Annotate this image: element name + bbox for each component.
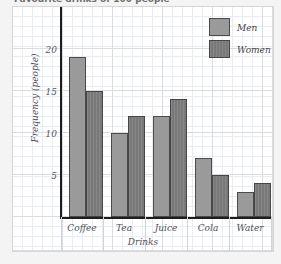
x-tick-label-coffee: Coffee [61, 223, 103, 233]
chart-title-clipped: Favourite drinks of 100 people [14, 0, 254, 4]
legend-label-women: Women [237, 45, 271, 55]
bar-men-water [237, 192, 254, 217]
bar-men-juice [153, 116, 170, 217]
bar-women-cola [212, 175, 229, 217]
x-tick-label-tea: Tea [103, 223, 145, 233]
legend-swatch-men [209, 18, 230, 36]
chart-frame: 20 15 10 5 Frequency (people) Coffee Tea… [12, 6, 274, 252]
legend-label-men: Men [237, 23, 257, 33]
bar-women-water [254, 183, 271, 217]
bar-men-cola [195, 158, 212, 217]
chart-screenshot: Favourite drinks of 100 people 20 15 10 … [0, 0, 281, 264]
y-axis-line [60, 7, 62, 218]
x-axis-baseline [60, 217, 272, 219]
x-axis-title: Drinks [13, 237, 273, 247]
y-axis-title: Frequency (people) [30, 48, 40, 148]
bar-women-juice [170, 99, 187, 217]
y-tick-label-5: 5 [29, 171, 57, 181]
bar-women-coffee [86, 91, 103, 217]
bar-men-coffee [69, 57, 86, 217]
legend-swatch-women [209, 40, 230, 58]
x-tick-label-cola: Cola [187, 223, 229, 233]
x-tick-label-water: Water [229, 223, 271, 233]
bar-men-tea [111, 133, 128, 217]
x-tick-label-juice: Juice [145, 223, 187, 233]
bar-women-tea [128, 116, 145, 217]
